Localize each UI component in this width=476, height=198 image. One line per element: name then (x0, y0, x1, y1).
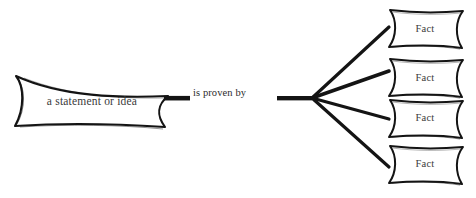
statement-node-shape[interactable] (15, 76, 168, 129)
edge-to-fact-2 (312, 71, 389, 98)
edge-to-fact-1 (312, 27, 389, 98)
fact-node-2-shape[interactable] (389, 59, 463, 98)
fanout-edges (312, 27, 389, 167)
relation-edge-label: is proven by (193, 87, 273, 109)
connector-stub-right (277, 98, 313, 100)
connector-stub-left (164, 98, 190, 100)
fact-node-4-shape[interactable] (389, 146, 463, 185)
fact-node-1-shape[interactable] (389, 10, 463, 49)
diagram-canvas: a statement or idea is proven by Fact Fa… (0, 0, 476, 198)
fact-node-3-shape[interactable] (389, 100, 463, 139)
